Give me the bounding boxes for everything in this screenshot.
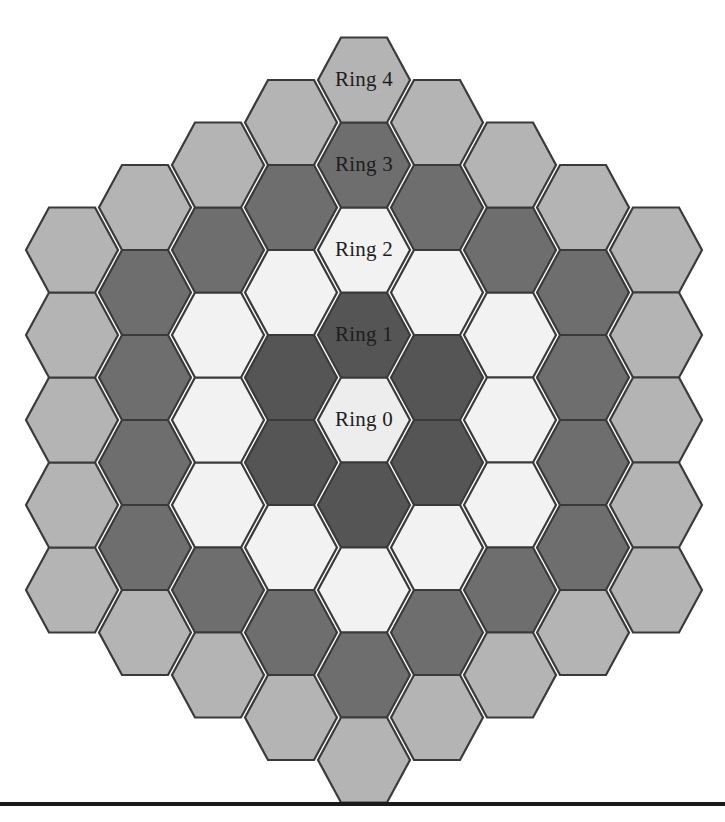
ring-label-4: Ring 4 <box>335 67 393 91</box>
ring-label-1: Ring 1 <box>335 322 393 346</box>
ring-label-3: Ring 3 <box>335 152 393 176</box>
baseline-rule <box>0 802 725 806</box>
ring-label-0: Ring 0 <box>335 407 393 431</box>
ring-label-2: Ring 2 <box>335 237 393 261</box>
hex-grid-svg: Ring 0Ring 1Ring 2Ring 3Ring 4 <box>0 0 725 822</box>
hexagonal-ring-diagram: Ring 0Ring 1Ring 2Ring 3Ring 4 <box>0 0 725 822</box>
